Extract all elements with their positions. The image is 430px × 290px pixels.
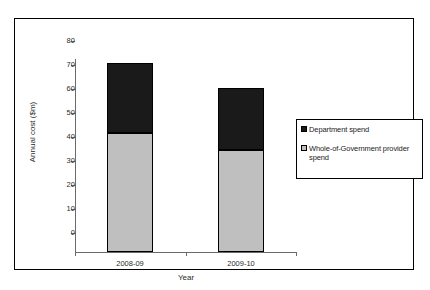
chart-legend: Department spend Whole-of-Government pro…: [296, 119, 423, 179]
bar-segment-department-spend: [107, 63, 153, 133]
y-tick-0: 0: [15, 229, 75, 237]
y-axis-title: Annual cost ($m): [28, 72, 38, 192]
y-tick-10: 10: [15, 205, 75, 213]
y-tick-80: 80: [15, 37, 75, 45]
legend-label: Whole-of-Government provider spend: [309, 144, 419, 162]
y-tick-label: 40: [41, 133, 75, 141]
y-tick-label: 60: [41, 85, 75, 93]
x-axis-tick: [296, 252, 297, 256]
y-tick-30: 30: [15, 157, 75, 165]
x-axis-tick: [186, 252, 187, 256]
y-axis-line: [75, 59, 76, 253]
y-tick-label: 0: [41, 229, 75, 237]
y-tick-label: 30: [41, 157, 75, 165]
y-tick-60: 60: [15, 85, 75, 93]
y-tick-20: 20: [15, 181, 75, 189]
chart-screenshot: 80 70 60 50 40 30 20 10: [0, 0, 430, 290]
legend-swatch-icon: [301, 126, 307, 132]
legend-label: Department spend: [309, 125, 369, 134]
y-tick-label: 70: [41, 61, 75, 69]
chart-plot-frame: 80 70 60 50 40 30 20 10: [14, 18, 414, 270]
x-tick-label-2008-09: 2008-09: [85, 259, 175, 268]
y-tick-50: 50: [15, 109, 75, 117]
legend-item-department-spend: Department spend: [301, 125, 419, 134]
legend-swatch-icon: [301, 145, 307, 151]
legend-item-wog-provider-spend: Whole-of-Government provider spend: [301, 144, 419, 162]
y-tick-label: 20: [41, 181, 75, 189]
y-tick-label: 50: [41, 109, 75, 117]
y-tick-40: 40: [15, 133, 75, 141]
bar-segment-department-spend: [218, 88, 264, 150]
y-tick-label: 10: [41, 205, 75, 213]
bar-segment-wog-provider-spend: [107, 133, 153, 252]
x-axis-title: Year: [75, 273, 297, 283]
bar-segment-wog-provider-spend: [218, 150, 264, 252]
y-tick-70: 70: [15, 61, 75, 69]
x-tick-label-2009-10: 2009-10: [196, 259, 286, 268]
y-tick-label: 80: [41, 37, 75, 45]
x-axis-tick: [75, 252, 76, 256]
